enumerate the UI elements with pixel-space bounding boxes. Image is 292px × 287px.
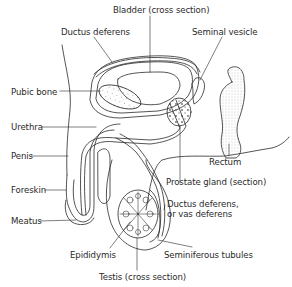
label-ductus-deferens-2: or vas deferens bbox=[167, 209, 232, 219]
label-seminal-vesicle: Seminal vesicle bbox=[192, 27, 257, 37]
rectum bbox=[220, 67, 245, 158]
ductus-deferens-lower bbox=[120, 134, 165, 236]
label-ductus-deferens-1: Ductus deferens, bbox=[167, 199, 239, 209]
label-foreskin: Foreskin bbox=[11, 185, 46, 195]
label-seminiferous-tubules: Seminiferous tubules bbox=[164, 250, 253, 260]
label-ductus-deferens-top: Ductus deferens bbox=[61, 27, 130, 37]
label-pubic-bone: Pubic bone bbox=[11, 87, 57, 97]
abdomen-outline bbox=[62, 45, 70, 175]
seminiferous-tubules bbox=[120, 192, 156, 236]
label-epididymis: Epididymis bbox=[70, 250, 116, 260]
diagram-artwork bbox=[0, 0, 292, 287]
label-meatus: Meatus bbox=[11, 216, 42, 226]
prostate-gland bbox=[167, 98, 191, 126]
label-bladder: Bladder (cross section) bbox=[113, 5, 209, 15]
scrotum-outline bbox=[106, 160, 170, 250]
label-urethra: Urethra bbox=[11, 122, 43, 132]
anatomy-diagram: Bladder (cross section) Ductus deferens … bbox=[0, 0, 292, 287]
seminal-vesicle bbox=[192, 78, 205, 104]
label-prostate: Prostate gland (section) bbox=[166, 177, 266, 187]
label-testis: Testis (cross section) bbox=[99, 272, 186, 282]
cut-off-caption bbox=[0, 0, 292, 2]
label-rectum: Rectum bbox=[209, 157, 241, 167]
label-penis: Penis bbox=[11, 151, 33, 161]
penis-outline bbox=[66, 124, 120, 222]
